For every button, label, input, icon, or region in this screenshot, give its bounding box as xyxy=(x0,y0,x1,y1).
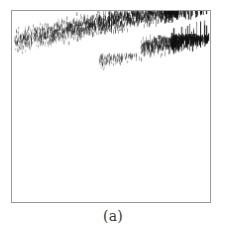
plot-frame xyxy=(11,10,211,203)
figure-caption: (a) xyxy=(0,207,226,225)
scatter-plot-canvas xyxy=(12,11,210,202)
figure-container: (a) xyxy=(0,0,226,236)
